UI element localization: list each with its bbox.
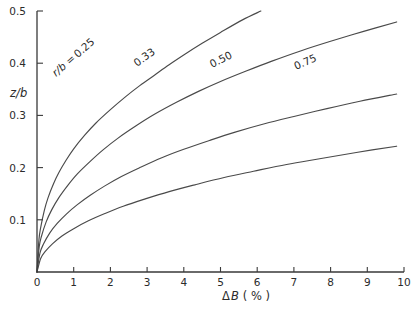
curve-label-1: 0.33 xyxy=(131,45,157,68)
chart-figure: 012345678910 0.10.20.30.40.5 z/b ΔB( % )… xyxy=(0,0,420,316)
y-axis-title-text: z/b xyxy=(9,86,27,100)
x-tick-label: 4 xyxy=(180,276,187,288)
x-tick-label: 2 xyxy=(107,276,114,288)
y-tick-label: 0.2 xyxy=(9,162,26,174)
y-axis-ticks xyxy=(37,11,43,220)
curve-label-3: 0.75 xyxy=(292,51,318,71)
y-tick-label: 0.5 xyxy=(9,5,26,17)
x-axis-title-delta: Δ xyxy=(222,289,230,303)
x-axis-title: ΔB( % ) xyxy=(222,289,270,303)
x-tick-label: 9 xyxy=(364,276,371,288)
x-tick-label: 10 xyxy=(397,276,410,288)
y-tick-label: 0.1 xyxy=(9,214,26,226)
x-axis-ticks xyxy=(74,267,404,272)
curves-group xyxy=(37,11,397,272)
y-axis-title: z/b xyxy=(9,86,27,100)
y-tick-label: 0.3 xyxy=(9,109,26,121)
axes-group xyxy=(37,11,404,272)
curve-label-0: r/b =0.25 xyxy=(49,35,96,78)
x-tick-label: 0 xyxy=(34,276,41,288)
curve-series-3 xyxy=(37,146,397,272)
x-tick-label: 5 xyxy=(217,276,224,288)
chart-svg: 012345678910 0.10.20.30.40.5 z/b ΔB( % )… xyxy=(0,0,420,316)
y-tick-label: 0.4 xyxy=(9,57,26,69)
curve-series-2 xyxy=(37,94,397,272)
x-axis-title-unit: ( % ) xyxy=(243,289,270,303)
curve-label-2: 0.50 xyxy=(207,48,233,69)
x-tick-label: 6 xyxy=(254,276,261,288)
curve-labels-group: r/b =0.25 0.33 0.50 0.75 xyxy=(49,35,318,78)
x-tick-label: 1 xyxy=(70,276,77,288)
x-axis-title-text: ΔB( % ) xyxy=(222,289,270,303)
x-axis-tick-labels: 012345678910 xyxy=(34,276,411,288)
curve-label-0-value: 0.25 xyxy=(71,35,97,59)
x-axis-title-symbol: B xyxy=(231,289,239,303)
x-tick-label: 3 xyxy=(144,276,151,288)
curve-label-0-prefix: r/b = xyxy=(49,52,77,79)
x-tick-label: 7 xyxy=(291,276,298,288)
x-tick-label: 8 xyxy=(327,276,334,288)
y-axis-tick-labels: 0.10.20.30.40.5 xyxy=(9,5,26,226)
axis-lines xyxy=(37,11,404,272)
